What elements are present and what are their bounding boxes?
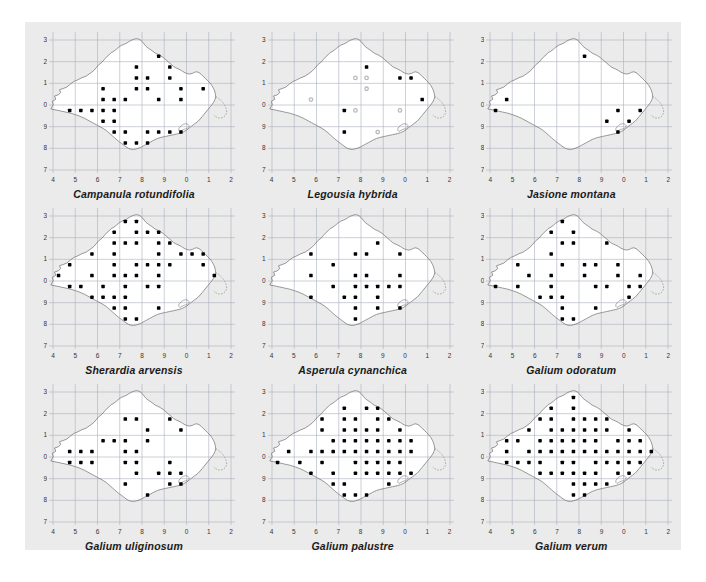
record-symbol-present [68,285,72,289]
record-symbol-present [550,252,554,256]
record-symbol-present [342,450,346,454]
record-symbol-present [398,252,402,256]
record-symbol-present [364,65,368,69]
record-symbol-present [617,450,621,454]
record-symbol-present [168,241,172,245]
x-axis-tick-label: 9 [162,353,166,360]
record-symbol-present [112,98,116,102]
record-symbol-present [628,450,632,454]
record-symbol-present [112,130,116,134]
record-symbol-present [146,439,150,443]
record-symbol-present [409,450,413,454]
record-symbol-present [617,263,621,267]
record-symbol-present [561,450,565,454]
record-symbol-present [135,87,139,91]
record-symbol-present [364,461,368,465]
record-symbol-present [572,493,576,497]
record-symbol-present [376,241,380,245]
distribution-map [47,206,237,351]
record-symbol-present [605,120,609,124]
record-symbol-present [605,482,609,486]
x-axis-tick-label: 1 [207,177,211,184]
record-symbol-present [79,461,83,465]
y-axis-labels: 3210987 [252,30,266,175]
record-symbol-present [353,493,357,497]
x-axis-tick-label: 2 [229,529,233,536]
record-symbol-present [561,220,565,224]
x-axis-tick-label: 9 [600,177,604,184]
record-symbol-present [516,263,520,267]
record-symbol-present [594,428,598,432]
map-panel: 3210987456789012Galium odoratum [462,198,681,374]
x-axis-tick-label: 0 [403,529,407,536]
record-symbol-present [168,263,172,267]
record-symbol-present [572,407,576,411]
y-axis-labels: 3210987 [33,382,47,527]
record-symbol-present [409,472,413,476]
record-symbol-present [572,241,576,245]
record-symbol-present [353,296,357,300]
record-symbol-present [572,450,576,454]
x-axis-tick-label: 0 [403,353,407,360]
distribution-map [484,382,674,527]
x-axis-tick-label: 0 [185,529,189,536]
record-symbol-present [124,296,128,300]
record-symbol-present [516,439,520,443]
x-axis-tick-label: 4 [489,177,493,184]
record-symbol-present [135,450,139,454]
record-symbol-present [572,231,576,235]
record-symbol-present [594,439,598,443]
record-symbol-present [561,296,565,300]
x-axis-tick-label: 8 [140,353,144,360]
record-symbol-present [342,130,346,134]
record-symbol-present [387,461,391,465]
record-symbol-present [572,317,576,321]
record-symbol-present [287,450,291,454]
x-axis-tick-label: 4 [270,353,274,360]
record-symbol-present [583,450,587,454]
record-symbol-present [135,65,139,69]
figure-plate: 3210987456789012Campanula rotundifolia32… [25,22,681,550]
record-symbol-present [342,296,346,300]
record-symbol-present [157,306,161,310]
distribution-map [484,206,674,351]
record-symbol-present [594,306,598,310]
x-axis-tick-label: 9 [381,177,385,184]
record-symbol-present [561,317,565,321]
record-symbol-present [605,450,609,454]
record-symbol-present [68,461,72,465]
x-axis-tick-label: 1 [644,529,648,536]
record-symbol-present [628,296,632,300]
record-symbol-present [124,461,128,465]
record-symbol-present [398,472,402,476]
record-symbol-present [353,428,357,432]
map-panel: 3210987456789012Asperula cynanchica [244,198,463,374]
record-symbol-present [617,130,621,134]
record-symbol-present [387,482,391,486]
record-symbol-present [572,396,576,400]
record-symbol-present [135,417,139,421]
record-symbol-present [605,417,609,421]
record-symbol-present [387,472,391,476]
record-symbol-present [583,274,587,278]
record-symbol-present [364,274,368,278]
record-symbol-present [409,439,413,443]
record-symbol-present [539,296,543,300]
record-symbol-present [353,252,357,256]
record-symbol-present [342,482,346,486]
record-symbol-present [68,450,72,454]
record-symbol-present [112,241,116,245]
record-symbol-present [331,263,335,267]
x-axis-tick-label: 8 [140,177,144,184]
map-panel: 3210987456789012Galium uliginosum [25,374,244,550]
panel-caption: Galium verum [462,540,680,552]
record-symbol-present [353,274,357,278]
record-symbol-present [398,76,402,80]
record-symbol-present [146,76,150,80]
record-symbol-present [112,306,116,310]
record-symbol-present [561,428,565,432]
record-symbol-present [420,98,424,102]
panel-caption: Galium palustre [244,540,462,552]
x-axis-tick-label: 5 [292,529,296,536]
record-symbol-present [90,109,94,113]
